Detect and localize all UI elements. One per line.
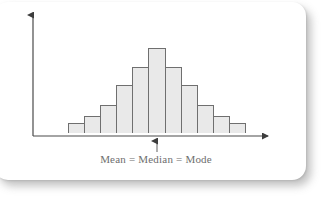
histogram-bar	[165, 67, 182, 134]
histogram-bar-peak	[148, 48, 165, 134]
histogram-bar	[229, 123, 246, 133]
histogram-bar	[100, 105, 117, 133]
histogram-bars	[68, 38, 246, 133]
histogram-bar	[116, 85, 133, 133]
histogram-bar	[68, 123, 85, 133]
histogram-bar	[197, 105, 214, 133]
figure-container: Mean = Median = Mode	[0, 0, 333, 200]
histogram-plot: Mean = Median = Mode	[0, 0, 312, 178]
histogram-bar	[213, 116, 230, 133]
figure-caption: Mean = Median = Mode	[0, 153, 312, 165]
histogram-bar	[84, 116, 101, 133]
histogram-bar	[132, 67, 149, 134]
histogram-bar	[181, 85, 198, 133]
